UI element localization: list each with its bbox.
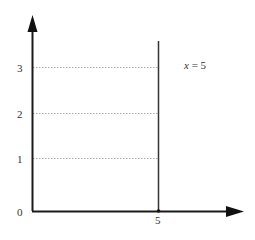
y-tick-1: 1 <box>17 153 23 165</box>
x-tick-5: 5 <box>155 214 161 226</box>
y-tick-3: 3 <box>17 62 23 74</box>
line-annotation: x = 5 <box>183 59 207 71</box>
y-axis-arrow-icon <box>28 15 38 32</box>
gridlines <box>33 68 158 159</box>
x-axis <box>32 206 244 217</box>
y-tick-2: 2 <box>17 108 23 120</box>
annotation-value: = 5 <box>189 59 207 71</box>
chart-canvas: 3 2 1 0 5 x = 5 <box>0 0 255 240</box>
x-axis-arrow-icon <box>226 206 244 217</box>
y-tick-0: 0 <box>17 206 23 218</box>
